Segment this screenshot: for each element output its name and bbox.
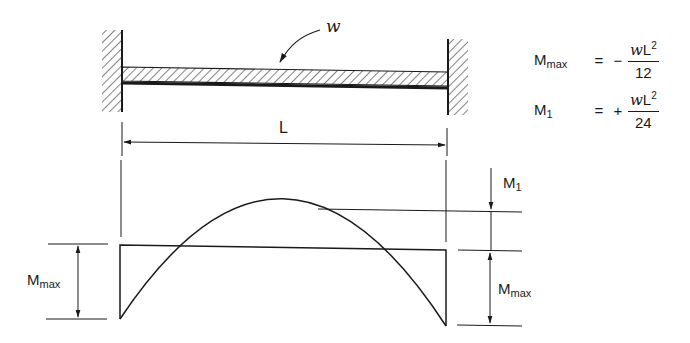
- right-m1-label: M1: [503, 175, 522, 193]
- formula-m1: M1 = + wL2 24: [534, 90, 659, 131]
- label-sub: 1: [516, 181, 522, 193]
- label-sub: max: [40, 278, 61, 290]
- formula-lhs: Mmax: [534, 51, 590, 70]
- label-main: M: [498, 280, 511, 297]
- minus-sign: −: [608, 52, 628, 69]
- right-fixed-support: [448, 39, 468, 115]
- label-sub: max: [511, 287, 532, 299]
- numerator: wL2: [628, 40, 659, 62]
- denominator: 12: [635, 62, 652, 81]
- denominator: 24: [635, 112, 652, 131]
- moment-diagram: [120, 199, 446, 326]
- load-label: w: [326, 18, 341, 35]
- equals-sign: =: [590, 52, 608, 69]
- right-mmax-label: Mmax: [498, 281, 531, 299]
- formula-lhs: M1: [534, 101, 590, 120]
- fraction: wL2 12: [628, 40, 659, 81]
- formula-mmax: Mmax = − wL2 12: [534, 40, 659, 81]
- label-main: M: [503, 174, 516, 191]
- fraction: wL2 24: [628, 90, 659, 131]
- beam: [122, 67, 448, 88]
- left-fixed-support: [102, 30, 122, 112]
- right-m1-dimension: [318, 168, 522, 212]
- plus-sign: +: [608, 102, 628, 119]
- load-arrow: [280, 30, 320, 62]
- left-mmax-label: Mmax: [27, 272, 60, 290]
- span-label: L: [279, 120, 288, 136]
- numerator: wL2: [628, 90, 659, 112]
- equals-sign: =: [590, 102, 608, 119]
- right-mmax-dimension: [457, 212, 522, 326]
- label-main: M: [27, 271, 40, 288]
